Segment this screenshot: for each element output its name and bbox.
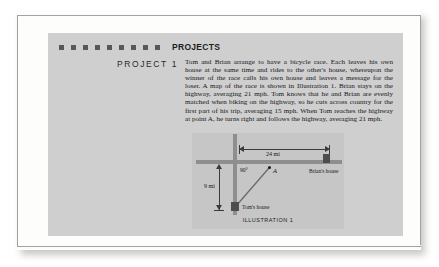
decorative-square-icon bbox=[143, 45, 148, 50]
brian-house-marker-icon bbox=[323, 154, 330, 163]
arrow-up-icon bbox=[216, 164, 222, 169]
decorative-square-icon bbox=[107, 45, 112, 50]
point-a-label: A bbox=[273, 167, 277, 174]
brian-house-label: Brian's house bbox=[309, 168, 339, 174]
decorative-square-icon bbox=[71, 45, 76, 50]
country-route-line bbox=[192, 133, 344, 215]
sheet-edge-bottom bbox=[17, 246, 421, 247]
illustration-caption: ILLUSTRATION 1 bbox=[192, 217, 344, 223]
dimension-line-24mi bbox=[239, 149, 330, 150]
dimension-line-9mi bbox=[219, 165, 220, 210]
dimension-tick-bottom bbox=[214, 210, 224, 211]
right-angle-label: 90° bbox=[240, 167, 248, 173]
project-body-text: Tom and Brian arrange to have a bicycle … bbox=[185, 58, 393, 123]
project-content-panel: PROJECTS PROJECT 1 Tom and Brian arrange… bbox=[48, 33, 403, 236]
sheet-edge-top bbox=[17, 15, 421, 16]
dimension-label-24mi: 24 mi bbox=[266, 151, 280, 157]
decorative-square-icon bbox=[155, 45, 160, 50]
project-number-label: PROJECT 1 bbox=[96, 59, 178, 69]
sheet-edge-left bbox=[17, 15, 18, 247]
decorative-square-icon bbox=[59, 45, 64, 50]
decorative-square-icon bbox=[131, 45, 136, 50]
section-header: PROJECTS bbox=[59, 41, 220, 53]
tom-house-label: Tom's house bbox=[242, 204, 269, 210]
dimension-tick-left bbox=[239, 145, 240, 154]
sheet-edge-right bbox=[420, 15, 421, 245]
decorative-square-icon bbox=[95, 45, 100, 50]
scanned-page-sheet: PROJECTS PROJECT 1 Tom and Brian arrange… bbox=[17, 12, 421, 250]
point-a-marker bbox=[268, 166, 271, 169]
decorative-square-strip bbox=[59, 45, 160, 50]
illustration-figure: 24 mi 9 mi 90° A Brian's house Tom's hou… bbox=[192, 133, 344, 229]
illustration-canvas: 24 mi 9 mi 90° A Brian's house Tom's hou… bbox=[192, 133, 344, 215]
dimension-tick-right bbox=[329, 145, 330, 154]
dimension-label-9mi: 9 mi bbox=[204, 183, 215, 189]
decorative-square-icon bbox=[83, 45, 88, 50]
decorative-square-icon bbox=[119, 45, 124, 50]
section-heading: PROJECTS bbox=[172, 42, 220, 52]
tom-house-marker-icon bbox=[231, 202, 239, 211]
